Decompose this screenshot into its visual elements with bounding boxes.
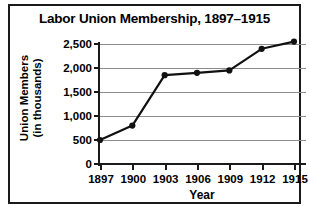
x-axis-tick-label: 1900 (121, 173, 147, 185)
x-axis-tick-label: 1915 (282, 173, 308, 185)
x-axis-line (98, 163, 306, 165)
data-series (98, 44, 306, 164)
y-axis-tick-label: 2,000 (44, 62, 92, 74)
x-axis-title: Year (98, 188, 306, 202)
chart-figure: Labor Union Membership, 1897–1915 Union … (8, 4, 301, 204)
y-axis-title-line1: Union Members (18, 55, 30, 141)
plot-area (98, 44, 306, 164)
x-axis-tick-label: 1909 (218, 173, 244, 185)
data-point (291, 39, 297, 45)
data-point (259, 46, 265, 52)
x-axis-tick-label: 1903 (153, 173, 179, 185)
x-axis-tick-mark (229, 164, 231, 170)
x-axis-tick-label: 1906 (185, 173, 211, 185)
x-axis-tick-mark (294, 164, 296, 170)
x-axis-tick-label: 1912 (250, 173, 276, 185)
y-axis-tick-label: 500 (44, 134, 92, 146)
series-line (100, 42, 294, 140)
x-axis-tick-mark (132, 164, 134, 170)
x-axis-tick-mark (197, 164, 199, 170)
data-point (226, 67, 232, 73)
x-axis-tick-mark (100, 164, 102, 170)
x-axis-tick-label: 1897 (88, 173, 114, 185)
y-axis-tick-label: 2,500 (44, 38, 92, 50)
y-axis-tick-label: 1,500 (44, 86, 92, 98)
y-axis-line (98, 42, 100, 166)
data-point (194, 70, 200, 76)
y-axis-tick-label: 0 (44, 158, 92, 170)
y-axis-tick-label: 1,000 (44, 110, 92, 122)
data-point (129, 123, 135, 129)
x-axis-tick-mark (262, 164, 264, 170)
y-axis-tick-labels: 05001,0001,5002,0002,500 (40, 6, 92, 211)
x-axis-tick-mark (165, 164, 167, 170)
data-point (162, 72, 168, 78)
